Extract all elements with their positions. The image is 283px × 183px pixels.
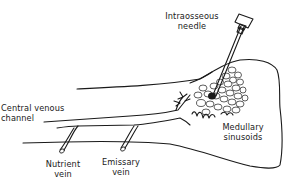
label-needle-line2: needle [154, 22, 230, 32]
central-venous-channel-upper [44, 95, 190, 122]
label-medullary-sinusoids: Medullary sinusoids [218, 123, 268, 142]
nutrient-vein-shape [60, 126, 78, 150]
medullary-sinusoids-cluster [192, 67, 248, 118]
label-intraosseous-needle: Intraosseous needle [154, 12, 230, 31]
emissary-vein-shape [121, 126, 138, 148]
label-nutrient-vein: Nutrient vein [38, 160, 88, 179]
vessel-branches [174, 92, 190, 110]
label-emissary-line2: vein [96, 168, 146, 178]
label-nutrient-line2: vein [38, 170, 88, 180]
bone-upper-inner-line [190, 72, 212, 83]
bone-diagram [0, 0, 283, 183]
nutrient-vein-opening [59, 148, 65, 154]
label-sinusoids-line2: sinusoids [218, 133, 268, 143]
label-channel-line2: channel [1, 114, 64, 124]
label-central-venous-channel: Central venous channel [1, 104, 64, 123]
emissary-vein-opening [120, 146, 126, 152]
label-emissary-vein: Emissary vein [96, 158, 146, 177]
